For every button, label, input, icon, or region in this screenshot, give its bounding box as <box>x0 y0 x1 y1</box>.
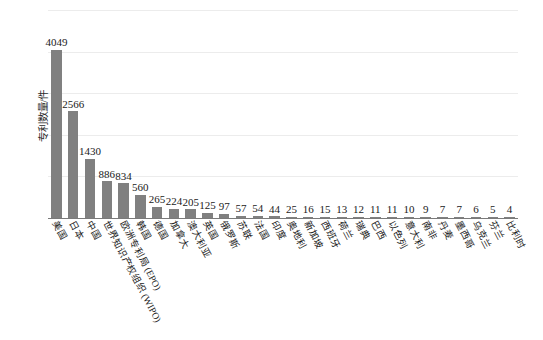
table-row: 15 <box>320 10 330 218</box>
table-row: 205 <box>185 10 195 218</box>
table-row: 12 <box>353 10 363 218</box>
bar-value-label: 9 <box>423 204 429 215</box>
table-row: 125 <box>202 10 212 218</box>
bar-chart: 4049256614308868345602652242051259757544… <box>0 0 543 340</box>
x-axis-tick-labels: 美国日本中国世界知识产权组织 (WIPO)欧洲专利局 (EPO)韩国德国加拿大澳… <box>48 220 518 338</box>
bar-value-label: 44 <box>269 204 280 215</box>
bar <box>202 213 212 218</box>
bar-value-label: 54 <box>252 203 263 214</box>
bar <box>169 209 179 218</box>
table-row: 224 <box>169 10 179 218</box>
bar-value-label: 5 <box>490 204 496 215</box>
bar <box>85 159 95 218</box>
x-axis-tick-label: 日本 <box>67 220 85 242</box>
bar <box>370 217 380 219</box>
bar-value-label: 12 <box>353 204 364 215</box>
bar-value-label: 11 <box>387 204 398 215</box>
bar <box>353 217 363 219</box>
bar-value-label: 16 <box>303 204 314 215</box>
x-axis-tick-label: 比利时 <box>503 220 525 251</box>
bar <box>471 217 481 219</box>
x-axis-tick-label: 瑞典 <box>352 220 370 242</box>
plot-area: 4049256614308868345602652242051259757544… <box>48 10 518 218</box>
x-axis-tick-label: 德国 <box>151 220 169 242</box>
table-row: 11 <box>387 10 397 218</box>
bar-value-label: 15 <box>319 204 330 215</box>
bar <box>404 217 414 219</box>
bar <box>437 217 447 219</box>
bar <box>236 216 246 218</box>
bar <box>102 181 112 218</box>
table-row: 2566 <box>68 10 78 218</box>
bar-value-label: 125 <box>199 200 216 211</box>
table-row: 7 <box>454 10 464 218</box>
bar-value-label: 57 <box>236 203 247 214</box>
bar-value-label: 834 <box>115 171 132 182</box>
bar <box>488 217 498 219</box>
bar <box>253 216 263 218</box>
x-axis-tick-label: 美国 <box>50 220 68 242</box>
table-row: 5 <box>488 10 498 218</box>
table-row: 1430 <box>85 10 95 218</box>
bar-value-label: 25 <box>286 204 297 215</box>
bar <box>135 195 145 218</box>
bar-value-label: 6 <box>473 204 479 215</box>
axis-baseline <box>48 218 518 219</box>
bar <box>454 217 464 219</box>
bar-value-label: 10 <box>403 204 414 215</box>
bar <box>68 111 78 218</box>
table-row: 886 <box>102 10 112 218</box>
table-row: 57 <box>236 10 246 218</box>
table-row: 54 <box>253 10 263 218</box>
bar <box>219 214 229 218</box>
bar <box>303 217 313 219</box>
y-axis-title: 专利数量/件 <box>35 90 50 143</box>
bar-series: 4049256614308868345602652242051259757544… <box>48 10 518 218</box>
bar-value-label: 2566 <box>62 99 84 110</box>
x-axis-tick-label: 巴西 <box>369 220 387 242</box>
bar <box>185 209 195 218</box>
bar-value-label: 13 <box>336 204 347 215</box>
table-row: 25 <box>286 10 296 218</box>
bar-value-label: 4049 <box>45 37 67 48</box>
x-axis-tick-label: 法国 <box>251 220 269 242</box>
bar-value-label: 97 <box>219 201 230 212</box>
table-row: 560 <box>135 10 145 218</box>
bar <box>387 217 397 219</box>
table-row: 4 <box>504 10 514 218</box>
table-row: 11 <box>370 10 380 218</box>
table-row: 44 <box>269 10 279 218</box>
table-row: 9 <box>420 10 430 218</box>
bar <box>504 217 514 219</box>
table-row: 10 <box>404 10 414 218</box>
bar-value-label: 224 <box>166 196 183 207</box>
table-row: 16 <box>303 10 313 218</box>
table-row: 4049 <box>51 10 61 218</box>
bar <box>152 207 162 218</box>
bar-value-label: 886 <box>98 169 115 180</box>
bar-value-label: 265 <box>149 194 166 205</box>
bar-value-label: 4 <box>507 204 513 215</box>
table-row: 265 <box>152 10 162 218</box>
table-row: 7 <box>437 10 447 218</box>
table-row: 834 <box>118 10 128 218</box>
table-row: 6 <box>471 10 481 218</box>
bar-value-label: 1430 <box>79 146 101 157</box>
bar <box>337 217 347 219</box>
bar <box>118 183 128 218</box>
bar <box>420 217 430 219</box>
bar <box>320 217 330 219</box>
x-axis-tick-label: 印度 <box>268 220 286 242</box>
bar <box>51 50 61 218</box>
bar-value-label: 560 <box>132 182 149 193</box>
table-row: 13 <box>337 10 347 218</box>
x-axis-tick-label: 中国 <box>84 220 102 242</box>
bar-value-label: 205 <box>182 197 199 208</box>
bar <box>269 216 279 218</box>
bar-value-label: 11 <box>370 204 381 215</box>
bar-value-label: 7 <box>456 204 462 215</box>
x-axis-tick-label: 丹麦 <box>436 220 454 242</box>
table-row: 97 <box>219 10 229 218</box>
bar-value-label: 7 <box>440 204 446 215</box>
bar <box>286 217 296 219</box>
